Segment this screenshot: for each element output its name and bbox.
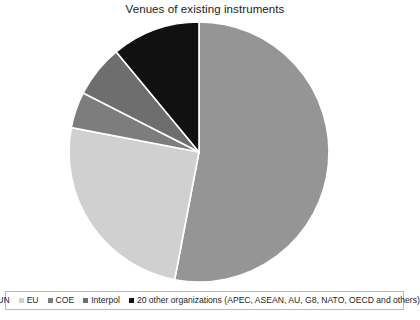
- legend-item[interactable]: 20 other organizations (APEC, ASEAN, AU,…: [129, 296, 420, 305]
- legend-swatch-icon: [19, 298, 24, 303]
- legend-item[interactable]: Interpol: [83, 296, 120, 305]
- legend-item[interactable]: COE: [48, 296, 75, 305]
- legend-item-label: Interpol: [91, 296, 120, 305]
- pie-plot-area: [0, 14, 410, 288]
- pie-slice[interactable]: [69, 128, 199, 280]
- legend-item-label: UN: [0, 296, 10, 305]
- legend-item[interactable]: EU: [19, 296, 39, 305]
- legend-item-label: EU: [27, 296, 39, 305]
- legend-item[interactable]: UN: [0, 296, 10, 305]
- chart-legend: UNEUCOEInterpol20 other organizations (A…: [5, 291, 404, 310]
- pie-slice-group: [69, 22, 329, 282]
- legend-item-label: COE: [56, 296, 75, 305]
- legend-swatch-icon: [129, 298, 134, 303]
- legend-item-label: 20 other organizations (APEC, ASEAN, AU,…: [137, 296, 420, 305]
- legend-swatch-icon: [83, 298, 88, 303]
- legend-swatch-icon: [48, 298, 53, 303]
- pie-svg: [0, 14, 410, 288]
